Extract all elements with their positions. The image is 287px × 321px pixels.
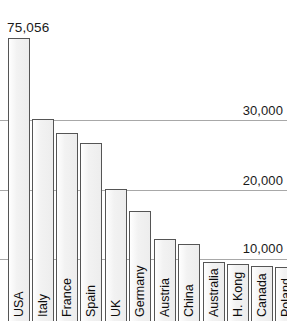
bar-germany[interactable]: Germany bbox=[129, 211, 151, 321]
bar-label-wrap: Germany bbox=[130, 251, 150, 321]
bar-label-wrap: UK bbox=[106, 251, 126, 321]
bar-label-spain: Spain bbox=[84, 285, 98, 317]
bar-label-italy: Italy bbox=[36, 294, 50, 317]
bar-label-wrap: Spain bbox=[81, 251, 101, 321]
bar-hkong[interactable]: H. Kong bbox=[227, 264, 249, 321]
bar-label-china: China bbox=[182, 284, 196, 317]
bar-poland[interactable]: Poland bbox=[275, 267, 287, 321]
bar-australia[interactable]: Australia bbox=[203, 262, 225, 321]
bar-france[interactable]: France bbox=[56, 133, 78, 321]
bar-canada[interactable]: Canada bbox=[251, 266, 273, 321]
bar-austria[interactable]: Austria bbox=[154, 239, 176, 321]
bar-label-wrap: Austria bbox=[155, 251, 175, 321]
bar-label-germany: Germany bbox=[133, 266, 147, 317]
bar-label-wrap: France bbox=[57, 251, 77, 321]
plot-area: 30,000 20,000 10,000 75,056 USA Italy Fr… bbox=[0, 0, 287, 321]
bar-label-wrap: Italy bbox=[33, 251, 53, 321]
bar-label-wrap: Australia bbox=[204, 251, 224, 321]
bar-label-wrap: USA bbox=[9, 251, 29, 321]
bar-label-usa: USA bbox=[12, 291, 26, 317]
bar-label-wrap: Canada bbox=[252, 251, 272, 321]
value-label-usa: 75,056 bbox=[7, 20, 50, 35]
bar-label-austria: Austria bbox=[158, 278, 172, 317]
bar-label-wrap: Poland bbox=[276, 251, 287, 321]
bar-label-wrap: China bbox=[179, 251, 199, 321]
bar-label-wrap: H. Kong bbox=[228, 251, 248, 321]
bar-label-hkong: H. Kong bbox=[231, 272, 245, 317]
bar-spain[interactable]: Spain bbox=[80, 143, 102, 321]
bar-chart: 30,000 20,000 10,000 75,056 USA Italy Fr… bbox=[0, 0, 287, 321]
bar-label-canada: Canada bbox=[255, 273, 269, 317]
bar-label-australia: Australia bbox=[207, 268, 221, 317]
bar-uk[interactable]: UK bbox=[105, 189, 127, 321]
bar-label-uk: UK bbox=[109, 300, 123, 317]
bar-china[interactable]: China bbox=[178, 244, 200, 321]
bar-usa[interactable]: USA bbox=[8, 38, 30, 321]
bar-italy[interactable]: Italy bbox=[32, 119, 54, 321]
bar-label-poland: Poland bbox=[279, 278, 287, 317]
gridline-label-30000: 30,000 bbox=[243, 103, 283, 118]
gridline-label-20000: 20,000 bbox=[243, 173, 283, 188]
bar-label-france: France bbox=[60, 278, 74, 317]
